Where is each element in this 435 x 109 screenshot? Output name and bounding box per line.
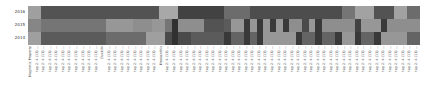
x-tick-label: tag 2: 4-(13) ... [376, 46, 379, 72]
x-tick-label: tag 2: 4-(13) ... [55, 46, 58, 72]
x-tick-label: tag 2: 4-(13) ... [108, 46, 111, 72]
x-tick-label: tag 2: 4-(13) ... [245, 46, 248, 72]
x-tick-label: tag 2: 4-(13) ... [75, 46, 78, 72]
x-tick-label: tag 2: 4-(13) ... [297, 46, 300, 72]
x-tick-label: Mezoanthis [160, 46, 163, 65]
x-tick-label: tag 2: 4-(13) ... [415, 46, 418, 72]
x-tick-label: tag 2: 4-(13) ... [291, 46, 294, 72]
x-tick-label: tag 2: 4-(13) ... [317, 46, 320, 72]
x-tick-label: tag 2: 4-(13) ... [382, 46, 385, 72]
x-tick-label: tag 2: 4-(13) ... [264, 46, 267, 72]
x-tick-label: tag 2: 4-(13) ... [402, 46, 405, 72]
x-tick-label: tag 2: 4-(13) ... [336, 46, 339, 72]
x-tick-label: tag 2: 4-(13) ... [232, 46, 235, 72]
x-tick-label: tag 2: 4-(13) ... [173, 46, 176, 72]
x-tick-label: tag 2: 4-(13) ... [310, 46, 313, 72]
heatmap-cell [413, 32, 420, 45]
x-tick-label: tag 2: 4-(13) ... [330, 46, 333, 72]
heatmap-grid [28, 6, 420, 45]
x-tick-label: tag 2: 4-(13) ... [127, 46, 130, 72]
x-tick-label: tag 2: 4-(13) ... [349, 46, 352, 72]
x-tick-label: tag 2: 4-(13) ... [49, 46, 52, 72]
x-tick-label: tag 2: 4-(13) ... [251, 46, 254, 72]
x-tick-label: tag 2: 4-(13) ... [356, 46, 359, 72]
x-tick-label: tag 2: 4-(13) ... [369, 46, 372, 72]
x-tick-label: tag 2: 4-(13) ... [88, 46, 91, 72]
y-tick-label-2014: 2014 [0, 35, 25, 40]
x-tick-label: tag 2: 4-(13) ... [238, 46, 241, 72]
x-tick-label: tag 2: 4-(13) ... [206, 46, 209, 72]
x-tick-label: tag 2: 4-(13) ... [166, 46, 169, 72]
x-tick-label: tag 2: 4-(13) ... [114, 46, 117, 72]
x-axis-labels: Magnetic Propertytag 2: 4-(13) ...tag 2:… [28, 46, 420, 108]
heatmap-cell [413, 6, 420, 19]
x-tick-label: tag 2: 4-(13) ... [284, 46, 287, 72]
x-tick-label: tag 2: 4-(13) ... [389, 46, 392, 72]
x-tick-label: tag 2: 4-(13) ... [140, 46, 143, 72]
x-tick-label: tag 2: 4-(13) ... [323, 46, 326, 72]
x-tick-label: tag 2: 4-(13) ... [153, 46, 156, 72]
x-tick-label: tag 2: 4-(13) ... [134, 46, 137, 72]
x-tick-label: tag 2: 4-(13) ... [42, 46, 45, 72]
x-tick-label: Ouckim [101, 46, 104, 59]
heatmap-cell [413, 19, 420, 32]
x-tick-label: tag 2: 4-(13) ... [362, 46, 365, 72]
x-tick-label: tag 2: 4-(13) ... [304, 46, 307, 72]
x-tick-label: tag 2: 4-(13) ... [36, 46, 39, 72]
x-tick-label: tag 2: 4-(13) ... [199, 46, 202, 72]
x-tick-label: tag 2: 4-(13) ... [258, 46, 261, 72]
x-tick-label: tag 2: 4-(13) ... [180, 46, 183, 72]
x-tick-label: tag 2: 4-(13) ... [95, 46, 98, 72]
y-tick-label-2015: 2015 [0, 22, 25, 27]
x-tick-label: tag 2: 4-(13) ... [212, 46, 215, 72]
x-tick-label: tag 2: 4-(13) ... [408, 46, 411, 72]
x-tick-label: tag 2: 4-(13) ... [68, 46, 71, 72]
x-tick-label: tag 2: 4-(13) ... [225, 46, 228, 72]
x-tick-label: tag 2: 4-(13) ... [147, 46, 150, 72]
x-tick-label: tag 2: 4-(13) ... [193, 46, 196, 72]
x-tick-label: tag 2: 4-(13) ... [82, 46, 85, 72]
x-tick-label: tag 2: 4-(13) ... [219, 46, 222, 72]
x-tick-label: tag 2: 4-(13) ... [395, 46, 398, 72]
x-tick-label: Magnetic Property [29, 46, 32, 77]
x-tick-label: tag 2: 4-(13) ... [271, 46, 274, 72]
x-tick-label: tag 2: 4-(13) ... [121, 46, 124, 72]
y-tick-label-2016: 2016 [0, 9, 25, 14]
heatmap-chart: 2016 2015 2014 Magnetic Propertytag 2: 4… [0, 0, 435, 109]
x-tick-label: tag 2: 4-(13) ... [186, 46, 189, 72]
x-tick-label: tag 2: 4-(13) ... [278, 46, 281, 72]
x-tick-label: tag 2: 4-(13) ... [343, 46, 346, 72]
x-tick-label: tag 2: 4-(13) ... [62, 46, 65, 72]
